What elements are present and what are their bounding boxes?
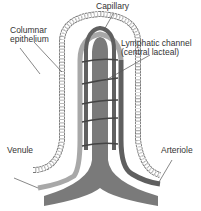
capillary-label: Capillary (96, 2, 129, 12)
arteriole-label: Arteriole (161, 146, 193, 156)
columnar-label-2: epithelium (10, 35, 49, 45)
venule-label: Venule (7, 146, 33, 156)
lymphatic-label-2: (central lacteal) (121, 48, 179, 58)
